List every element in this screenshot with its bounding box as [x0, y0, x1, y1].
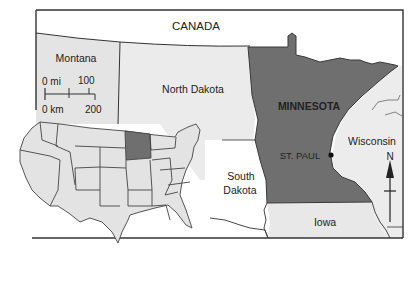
label-minnesota: MINNESOTA: [278, 100, 341, 112]
scale-mi-zero: 0 mi: [42, 76, 61, 87]
scale-mi-max: 100: [78, 75, 95, 86]
label-montana: Montana: [56, 52, 97, 64]
scale-km-max: 200: [85, 104, 102, 115]
label-st-paul: ST. PAUL: [280, 150, 320, 161]
label-south-dakota-1: South: [227, 170, 255, 182]
label-north-dakota: North Dakota: [162, 83, 224, 95]
label-compass-n: N: [386, 151, 393, 162]
label-iowa: Iowa: [314, 216, 336, 228]
st-paul-marker: [328, 152, 333, 157]
minnesota-location-map: CANADA Montana North Dakota MINNESOTA Wi…: [0, 0, 411, 281]
label-canada: CANADA: [172, 20, 220, 32]
label-wisconsin: Wisconsin: [348, 135, 396, 147]
label-south-dakota-2: Dakota: [223, 184, 256, 196]
scale-km-zero: 0 km: [42, 104, 64, 115]
